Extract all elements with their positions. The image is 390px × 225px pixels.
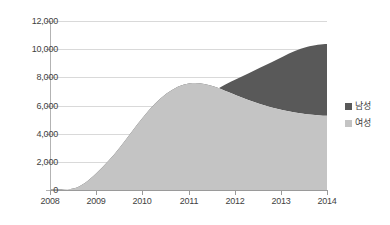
y-tick-label-6000: 6,000 (36, 102, 58, 111)
x-tick-label-2013: 2013 (261, 196, 301, 206)
x-tick-label-2009: 2009 (76, 196, 116, 206)
legend-item-female[interactable]: 여성 (345, 116, 371, 130)
x-tick-mark (189, 191, 190, 195)
y-tick-label-0: 0 (53, 186, 58, 195)
x-tick-mark (327, 191, 328, 195)
y-tick-label-10000: 10,000 (32, 45, 58, 54)
x-tick-label-2008: 2008 (30, 196, 70, 206)
chart-legend: 남성 여성 (345, 99, 371, 133)
stacked-area-chart: 12,000 10,000 8,000 6,000 4,000 2,000 0 … (0, 0, 390, 225)
y-tick-label-8000: 8,000 (36, 73, 58, 82)
x-tick-mark (235, 191, 236, 195)
y-tick-label-2000: 2,000 (36, 158, 58, 167)
legend-swatch-female-icon (345, 120, 352, 127)
x-tick-mark (50, 191, 51, 195)
legend-item-male[interactable]: 남성 (345, 99, 371, 113)
legend-label-male: 남성 (355, 101, 371, 111)
x-tick-label-2011: 2011 (169, 196, 209, 206)
x-tick-mark (281, 191, 282, 195)
y-tick-label-12000: 12,000 (32, 17, 58, 26)
x-tick-label-2014: 2014 (307, 196, 347, 206)
legend-swatch-male-icon (345, 103, 352, 110)
legend-label-female: 여성 (355, 118, 371, 128)
y-tick-label-4000: 4,000 (36, 130, 58, 139)
x-tick-mark (96, 191, 97, 195)
x-tick-mark (142, 191, 143, 195)
x-tick-label-2010: 2010 (122, 196, 162, 206)
x-tick-label-2012: 2012 (215, 196, 255, 206)
series-layer (50, 21, 328, 191)
